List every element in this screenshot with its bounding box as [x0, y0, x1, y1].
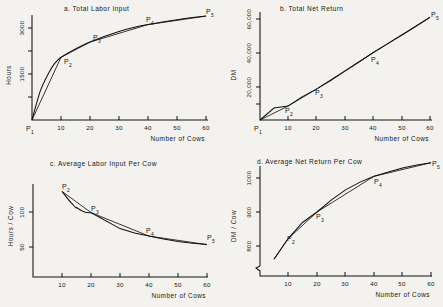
panel-b-yticklabel-40000: 40,000: [245, 42, 252, 63]
panel-b-axis-lines: [260, 12, 432, 120]
panel-c-y-axis-label: Hours / Cow: [7, 206, 14, 247]
svg-text:5: 5: [436, 15, 439, 21]
panel-b-title: b. Total Net Return: [280, 5, 343, 12]
panel-a-xticklabel-10: 10: [57, 124, 65, 131]
panel-d-point-P5: P 5: [432, 160, 440, 170]
panel-c-xticklabel-30: 30: [116, 281, 124, 288]
panel-a-xticklabel-50: 50: [173, 124, 181, 131]
svg-text:5: 5: [211, 12, 214, 18]
panel-d-xticklabel-20: 20: [313, 280, 321, 287]
svg-text:3: 3: [98, 38, 101, 44]
panel-a-yticklabel-3000: 3000: [18, 20, 25, 35]
panel-a-xticklabel-60: 60: [202, 124, 210, 131]
panel-a-xticklabel-20: 20: [86, 124, 94, 131]
panel-b-yticklabel-60000: 60,000: [245, 8, 252, 29]
panel-a-point-P3: P 3: [93, 34, 101, 44]
panel-c-smooth-curve: [62, 191, 207, 244]
panel-c-xticklabel-40: 40: [145, 281, 153, 288]
panel-c-point-P5: P 5: [207, 234, 215, 244]
panel-a-point-P1: P 1: [26, 125, 34, 135]
panel-d-y-axis-label: DM / Cow: [230, 210, 237, 242]
panel-b-point-P3: P 3: [315, 89, 323, 99]
panel-d-x-axis-label: Number of Cows: [375, 291, 430, 298]
svg-text:1: 1: [259, 129, 262, 135]
panel-b-point-P2: P 2: [285, 107, 293, 117]
panel-b-x-axis-label: Number of Cows: [374, 135, 429, 142]
panel-d-xticklabel-10: 10: [284, 280, 292, 287]
panel-d-point-P2: P 2: [287, 235, 295, 245]
panel-d-point-P4: P 4: [374, 178, 382, 188]
figure-panel-grid: a. Total Labor Input Hours 3000 1500 10 …: [0, 0, 443, 307]
panel-d-piecewise-line: [274, 163, 431, 260]
panel-a-total-labor-input: a. Total Labor Input Hours 3000 1500 10 …: [0, 0, 222, 154]
panel-a-xticklabel-30: 30: [115, 124, 123, 131]
panel-b-xticklabel-40: 40: [369, 124, 377, 131]
panel-d-xticklabel-60: 60: [427, 280, 435, 287]
svg-text:3: 3: [96, 209, 99, 215]
panel-c-xticklabel-10: 10: [58, 281, 66, 288]
panel-a-x-axis-label: Number of Cows: [150, 135, 205, 142]
svg-text:4: 4: [151, 20, 154, 26]
svg-text:2: 2: [290, 111, 293, 117]
panel-c-yticklabel-100: 100: [18, 206, 25, 217]
panel-a-point-P5: P 5: [206, 8, 214, 18]
panel-b-xticklabel-10: 10: [284, 124, 292, 131]
panel-c-point-P2: P 2: [62, 183, 70, 193]
panel-b-point-P1: P 1: [254, 125, 262, 135]
panel-c-title: c. Average Labor Input Per Cow: [50, 160, 157, 168]
panel-b-xticklabel-60: 60: [426, 124, 434, 131]
panel-d-yticklabel-900: 900: [245, 206, 252, 217]
panel-b-yticklabel-20000: 20,000: [245, 76, 252, 97]
panel-a-y-axis-label: Hours: [5, 65, 12, 85]
panel-d-title: d. Average Net Return Per Cow: [257, 158, 362, 166]
panel-d-average-net-return-per-cow: d. Average Net Return Per Cow DM / Cow 1…: [222, 154, 443, 307]
panel-b-piecewise-line: [260, 17, 430, 120]
panel-b-total-net-return: b. Total Net Return DM 60,000 40,000 20,…: [222, 0, 443, 154]
panel-d-axis-break: [256, 266, 432, 276]
svg-text:4: 4: [151, 231, 154, 237]
panel-c-yticklabel-50: 50: [18, 243, 25, 251]
panel-b-point-P4: P 4: [371, 56, 379, 66]
panel-a-title: a. Total Labor Input: [64, 5, 129, 13]
panel-b-point-P5: P 5: [431, 11, 439, 21]
svg-text:1: 1: [31, 129, 34, 135]
panel-d-yticklabel-1000: 1000: [245, 170, 252, 185]
panel-d-smooth-curve: [274, 163, 431, 260]
panel-c-axis-lines: [33, 184, 208, 277]
panel-b-xticklabel-50: 50: [398, 124, 406, 131]
panel-d-point-P3: P 3: [316, 213, 324, 223]
svg-text:5: 5: [212, 238, 215, 244]
svg-text:2: 2: [67, 187, 70, 193]
svg-text:2: 2: [292, 239, 295, 245]
svg-text:4: 4: [376, 60, 379, 66]
panel-a-smooth-curve: [32, 16, 206, 120]
svg-text:4: 4: [379, 182, 382, 188]
panel-c-x-axis-label: Number of Cows: [151, 292, 206, 299]
panel-c-xticklabel-60: 60: [203, 281, 211, 288]
panel-d-xticklabel-30: 30: [341, 280, 349, 287]
panel-b-xticklabel-20: 20: [312, 124, 320, 131]
panel-a-point-P2: P 2: [64, 58, 72, 68]
panel-a-yticklabel-1500: 1500: [18, 66, 25, 81]
panel-d-xticklabel-40: 40: [370, 280, 378, 287]
panel-d-xticklabel-50: 50: [398, 280, 406, 287]
svg-text:2: 2: [69, 62, 72, 68]
panel-c-xticklabel-50: 50: [174, 281, 182, 288]
panel-b-y-axis-label: DM: [230, 70, 237, 81]
svg-text:3: 3: [321, 217, 324, 223]
panel-b-xticklabel-30: 30: [341, 124, 349, 131]
panel-c-xticklabel-20: 20: [87, 281, 95, 288]
svg-text:3: 3: [320, 93, 323, 99]
panel-d-yticklabel-800: 800: [245, 240, 252, 251]
panel-a-xticklabel-40: 40: [144, 124, 152, 131]
panel-c-average-labor-input-per-cow: c. Average Labor Input Per Cow Hours / C…: [0, 154, 222, 307]
svg-text:5: 5: [437, 164, 440, 170]
panel-c-piecewise-line: [62, 191, 207, 244]
